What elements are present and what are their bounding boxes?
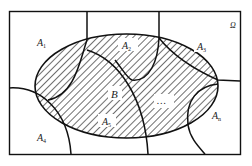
label-b: B bbox=[111, 88, 118, 100]
omega-label: Ω bbox=[230, 21, 236, 30]
ellipsis-label: … bbox=[157, 95, 166, 106]
partition-diagram: Ω A1 A2 A3 A4 A5 An B … bbox=[0, 0, 252, 166]
